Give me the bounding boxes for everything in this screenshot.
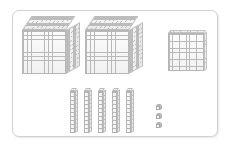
- unit-cube[interactable]: [156, 113, 162, 119]
- thousand-cube[interactable]: [85, 16, 129, 74]
- rod-front-face: [98, 91, 103, 133]
- ten-rod[interactable]: [112, 88, 120, 133]
- rod-right-face: [131, 89, 134, 133]
- unit-cube[interactable]: [156, 122, 162, 128]
- unit-right-face: [160, 105, 162, 110]
- unit-front-face: [156, 106, 160, 110]
- thousand-cube[interactable]: [22, 16, 66, 74]
- ten-rod[interactable]: [70, 88, 78, 133]
- cube-right-face: [66, 22, 80, 74]
- rod-front-face: [84, 91, 89, 133]
- rod-right-face: [117, 89, 120, 133]
- ten-rod[interactable]: [84, 88, 92, 133]
- flat-front-face: [168, 33, 204, 71]
- rod-front-face: [112, 91, 117, 133]
- rod-right-face: [89, 89, 92, 133]
- unit-cube[interactable]: [156, 104, 162, 110]
- ten-rod[interactable]: [126, 88, 134, 133]
- unit-right-face: [160, 114, 162, 119]
- unit-front-face: [156, 124, 160, 128]
- rod-front-face: [126, 91, 131, 133]
- flat-right-face: [204, 31, 207, 71]
- cube-front-face: [22, 30, 66, 74]
- ten-rod[interactable]: [98, 88, 106, 133]
- hundred-flat[interactable]: [168, 30, 204, 71]
- rod-right-face: [103, 89, 106, 133]
- cube-front-face: [85, 30, 129, 74]
- unit-right-face: [160, 123, 162, 128]
- rod-right-face: [75, 89, 78, 133]
- base-ten-blocks-canvas: [0, 0, 231, 149]
- rod-front-face: [70, 91, 75, 133]
- unit-front-face: [156, 115, 160, 119]
- cube-right-face: [129, 22, 143, 74]
